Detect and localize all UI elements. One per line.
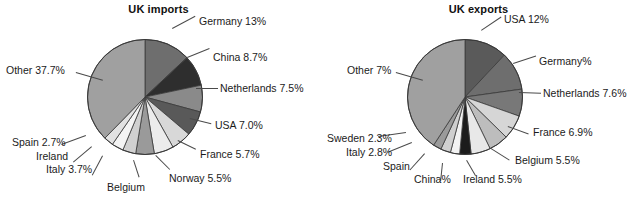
callout-other-x: Other 7% — [347, 64, 391, 76]
callout-germany: Germany 13% — [199, 15, 266, 27]
leader-netherlands — [196, 88, 218, 89]
callout-usa: USA 7.0% — [215, 119, 263, 131]
chart-title-imports: UK imports — [0, 3, 319, 15]
callout-italy-x: Italy 2.8% — [346, 146, 392, 158]
leader-usa-x — [481, 17, 501, 31]
callout-spain-x: Spain — [383, 160, 410, 172]
callout-usa-x: USA 12% — [504, 13, 549, 25]
callout-china: China 8.7% — [213, 51, 267, 63]
callout-norway: Norway 5.5% — [169, 172, 231, 184]
leader-germany — [172, 16, 195, 29]
chart-panel-exports: UK exports USA 12% Germany% Netherlands … — [321, 0, 642, 207]
callout-belgium: Belgium — [107, 181, 145, 193]
callout-spain: Spain 2.7% — [12, 136, 66, 148]
callout-china-x: China% — [414, 173, 451, 185]
callout-sweden-x: Sweden 2.3% — [327, 132, 392, 144]
callout-ireland-x: Ireland 5.5% — [463, 173, 522, 185]
callout-france-x: France 6.9% — [533, 126, 593, 138]
callout-ireland: Ireland — [36, 150, 68, 162]
callout-belgium-x: Belgium 5.5% — [515, 154, 580, 166]
pie-exports — [406, 38, 524, 156]
pie-exports-svg — [406, 38, 524, 156]
pie-imports-svg — [86, 38, 204, 156]
leader-italy — [92, 156, 103, 176]
callout-other: Other 37.7% — [6, 64, 65, 76]
chart-panel-imports: UK imports Germany 13% China 8.7% Nether… — [0, 0, 321, 207]
pie-imports — [86, 38, 204, 156]
callout-netherlands-x: Netherlands 7.6% — [543, 87, 626, 99]
callout-netherlands: Netherlands 7.5% — [220, 82, 303, 94]
callout-france: France 5.7% — [200, 148, 260, 160]
leader-belgium — [133, 160, 140, 177]
callout-germany-x: Germany% — [539, 55, 592, 67]
callout-italy: Italy 3.7% — [46, 163, 92, 175]
two-pie-chart-figure: UK imports Germany 13% China 8.7% Nether… — [0, 0, 642, 207]
chart-title-exports: UK exports — [318, 3, 639, 15]
leader-norway — [155, 155, 170, 170]
